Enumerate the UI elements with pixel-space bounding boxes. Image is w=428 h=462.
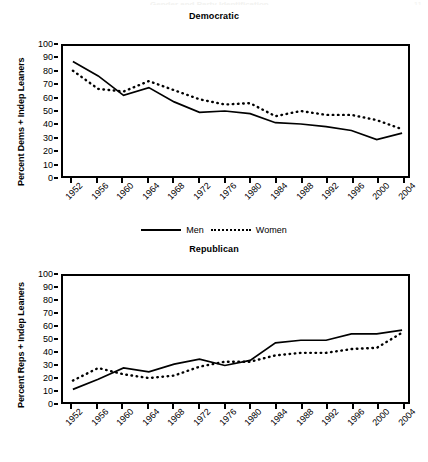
x-tick-label: 1984 [268,406,289,427]
x-tick-label: 1996 [345,180,366,201]
y-tick-mark [54,177,58,179]
chart-panel-democratic: Democratic Percent Dems + Indep Leaners … [0,6,428,238]
y-tick-label: 20 [43,373,53,383]
x-tick-label: 1964 [140,180,161,201]
chart-title-republican: Republican [0,244,428,254]
x-axis-labels-republican: 1952195619601964196819721976198019841988… [61,410,410,450]
y-axis-label-republican: Percent Reps + Indep Leaners [16,282,26,408]
x-tick-mark [352,178,354,183]
x-tick-mark [96,178,98,183]
y-tick-mark [54,351,58,353]
x-tick-mark [172,178,174,183]
x-tick-mark [326,404,328,409]
plot-svg-republican [63,276,408,402]
y-tick-mark [54,364,58,366]
x-tick-label: 1960 [114,406,135,427]
x-tick-mark [301,178,303,183]
x-tick-label: 1996 [345,406,366,427]
y-tick-mark [54,137,58,139]
y-tick-label: 80 [43,66,53,76]
x-tick-mark [147,178,149,183]
y-axis-ticks-democratic: 0102030405060708090100 [34,44,58,178]
y-tick-mark [54,70,58,72]
x-tick-mark [249,178,251,183]
y-tick-mark [54,390,58,392]
chart-title-democratic: Democratic [0,11,428,21]
x-tick-label: 1952 [63,180,84,201]
x-tick-mark [198,178,200,183]
dotted-line-icon [211,229,251,231]
plot-area-democratic [61,44,410,178]
x-tick-mark [224,404,226,409]
y-tick-mark [54,123,58,125]
x-tick-label: 1980 [243,406,264,427]
x-tick-mark [147,404,149,409]
x-tick-label: 1988 [294,406,315,427]
legend-item-women: Women [211,225,287,235]
x-tick-label: 1980 [243,180,264,201]
x-tick-mark [198,404,200,409]
x-tick-label: 1972 [191,406,212,427]
y-tick-label: 0 [48,173,53,183]
x-tick-mark [121,404,123,409]
x-tick-label: 1964 [140,406,161,427]
x-tick-label: 1952 [63,406,84,427]
y-tick-label: 90 [43,52,53,62]
y-tick-label: 20 [43,146,53,156]
x-tick-label: 2004 [396,406,417,427]
x-tick-label: 2004 [396,180,417,201]
x-tick-mark [377,178,379,183]
y-tick-label: 100 [38,269,53,279]
y-tick-mark [54,312,58,314]
x-tick-label: 1976 [217,406,238,427]
y-tick-mark [54,403,58,405]
x-tick-label: 1992 [319,406,340,427]
x-tick-mark [275,404,277,409]
y-tick-label: 50 [43,106,53,116]
x-tick-mark [275,178,277,183]
y-tick-label: 50 [43,334,53,344]
y-tick-mark [54,110,58,112]
x-tick-mark [172,404,174,409]
x-tick-label: 1956 [89,406,110,427]
y-tick-mark [54,286,58,288]
x-tick-label: 1968 [166,406,187,427]
series-line-men [73,330,402,389]
x-tick-mark [403,404,405,409]
x-tick-mark [403,178,405,183]
y-tick-mark [54,43,58,45]
x-tick-label: 1968 [166,180,187,201]
series-group-republican [73,330,402,389]
x-tick-label: 2000 [371,406,392,427]
y-tick-mark [54,83,58,85]
series-line-women [73,71,402,130]
series-line-men [73,62,402,140]
y-tick-label: 30 [43,360,53,370]
legend-item-men: Men [141,225,204,235]
page-number: 11 [414,0,422,5]
running-head: Gender and Party Identification [150,0,390,5]
x-tick-mark [377,404,379,409]
y-tick-label: 100 [38,39,53,49]
legend-democratic: Men Women [0,225,428,235]
x-tick-mark [249,404,251,409]
y-tick-mark [54,150,58,152]
solid-line-icon [141,229,181,231]
x-tick-mark [70,178,72,183]
y-tick-mark [54,273,58,275]
y-tick-label: 60 [43,321,53,331]
y-tick-label: 10 [43,386,53,396]
y-tick-mark [54,377,58,379]
x-tick-mark [326,178,328,183]
x-tick-label: 1984 [268,180,289,201]
x-tick-label: 1988 [294,180,315,201]
y-tick-mark [54,299,58,301]
y-tick-label: 70 [43,79,53,89]
x-axis-labels-democratic: 1952195619601964196819721976198019841988… [61,184,410,224]
y-tick-mark [54,164,58,166]
x-tick-label: 2000 [371,180,392,201]
y-axis-ticks-republican: 0102030405060708090100 [34,274,58,404]
x-tick-mark [121,178,123,183]
y-tick-mark [54,325,58,327]
x-tick-label: 1960 [114,180,135,201]
